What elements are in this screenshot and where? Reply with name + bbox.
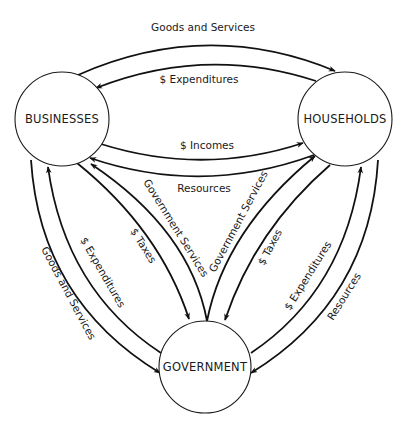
node-households: HOUSEHOLDS <box>298 72 392 166</box>
businesses-label: BUSINESSES <box>25 112 99 126</box>
label-expend-hh-to-bus: $ Expenditures <box>159 73 238 85</box>
node-government: GOVERNMENT <box>159 321 251 413</box>
node-businesses: BUSINESSES <box>15 72 109 166</box>
flow-arrow-expend-gov-to-bus <box>48 167 161 353</box>
circular-flow-diagram: BUSINESSES HOUSEHOLDS GOVERNMENT Goods a… <box>0 0 411 432</box>
flow-arrow-goods-bus-to-hh <box>78 45 335 75</box>
label-goods-bus-to-hh: Goods and Services <box>151 21 255 33</box>
households-label: HOUSEHOLDS <box>304 112 387 126</box>
flow-arrow-resources-hh-to-bus <box>90 155 314 176</box>
label-resources-hh-to-gov: Resources <box>325 270 364 322</box>
government-label: GOVERNMENT <box>163 360 248 374</box>
label-incomes-bus-to-hh: $ Incomes <box>180 139 234 151</box>
label-resources-hh-to-bus: Resources <box>177 182 231 194</box>
label-expend-gov-to-bus: $ Expenditures <box>78 235 128 309</box>
